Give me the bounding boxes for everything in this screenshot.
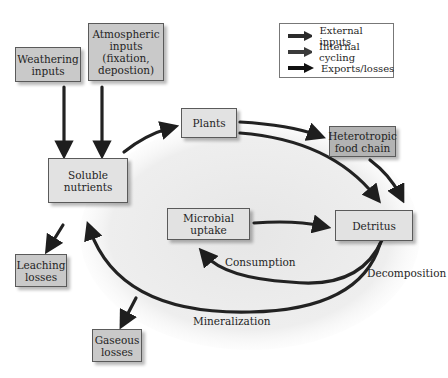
- nutrient-cycle-diagram: External inputs Internal cycling Exports…: [0, 0, 448, 378]
- label-mineralization: Mineralization: [193, 315, 271, 327]
- node-soluble-nutrients: Solublenutrients: [48, 158, 128, 203]
- arrow-icon: [288, 63, 314, 73]
- node-heterotropic-food-chain: Heterotropicfood chain: [329, 126, 396, 157]
- node-microbial-uptake: Microbialuptake: [167, 208, 250, 240]
- node-detritus: Detritus: [335, 210, 413, 241]
- legend-item-internal: Internal cycling: [288, 45, 393, 59]
- legend-item-exports: Exports/losses: [288, 61, 394, 75]
- leaching-arrow: [50, 225, 63, 246]
- node-weathering-inputs: Weatheringinputs: [15, 47, 81, 82]
- node-plants: Plants: [181, 108, 237, 138]
- legend: External inputs Internal cycling Exports…: [279, 23, 394, 78]
- node-atmospheric-inputs: Atmosphericinputs(fixation,depostion): [88, 23, 164, 81]
- node-leaching-losses: Leachinglosses: [15, 254, 67, 287]
- node-gaseous-losses: Gaseouslosses: [92, 329, 142, 362]
- arrow-icon: [288, 31, 312, 41]
- label-consumption: Consumption: [225, 256, 296, 268]
- label-decomposition: Decomposition: [367, 267, 446, 279]
- arrow-icon: [288, 47, 312, 57]
